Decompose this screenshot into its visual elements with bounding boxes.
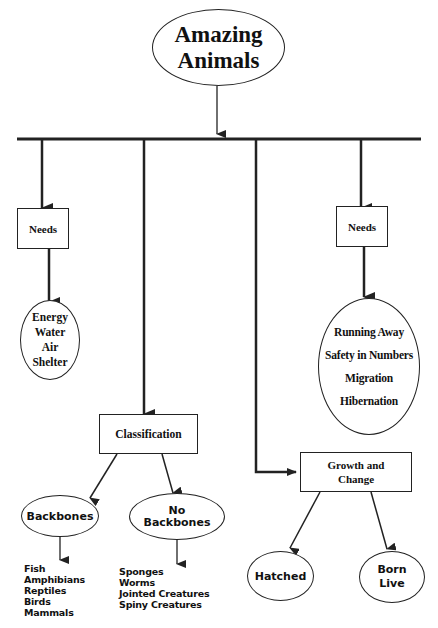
- needs-right-box: Needs: [336, 206, 388, 247]
- needs-left-item: Air: [42, 340, 59, 355]
- no-backbones-item: Sponges: [119, 566, 209, 577]
- no-backbones-list: Sponges Worms Jointed Creatures Spiny Cr…: [119, 566, 209, 610]
- needs-right-item: Hibernation: [340, 390, 398, 413]
- needs-left-item: Shelter: [32, 355, 67, 370]
- needs-right-item: Safety in Numbers: [325, 344, 413, 367]
- growth-label-line-1: Growth and: [328, 458, 385, 472]
- growth-change-box: Growth and Change: [300, 452, 412, 492]
- no-backbones-item: Jointed Creatures: [119, 588, 209, 599]
- title-line-1: Amazing: [174, 22, 262, 48]
- needs-left-label: Needs: [29, 223, 57, 235]
- needs-left-item: Energy: [32, 310, 68, 325]
- backbones-label: Backbones: [27, 510, 94, 523]
- needs-right-item: Running Away: [334, 321, 404, 344]
- hatched-label: Hatched: [255, 570, 307, 583]
- needs-right-item: Migration: [345, 367, 393, 390]
- backbones-item: Birds: [24, 596, 85, 607]
- needs-right-label: Needs: [348, 221, 376, 233]
- no-backbones-item: Spiny Creatures: [119, 599, 209, 610]
- hatched-node: Hatched: [247, 551, 314, 601]
- born-live-node: Born Live: [359, 551, 425, 603]
- backbones-item: Mammals: [24, 607, 85, 618]
- needs-left-box: Needs: [17, 208, 69, 249]
- backbones-item: Amphibians: [24, 574, 85, 585]
- needs-left-item: Water: [35, 325, 66, 340]
- no-backbones-node: No Backbones: [129, 493, 225, 540]
- no-backbones-label-line-1: No: [169, 505, 186, 517]
- growth-label-line-2: Change: [338, 472, 374, 486]
- no-backbones-item: Worms: [119, 577, 209, 588]
- backbones-node: Backbones: [21, 495, 99, 537]
- needs-right-items-node: Running Away Safety in Numbers Migration…: [318, 298, 420, 435]
- title-node: Amazing Animals: [152, 9, 285, 86]
- classification-label: Classification: [115, 428, 181, 440]
- needs-left-items-node: Energy Water Air Shelter: [20, 300, 80, 380]
- born-live-line-2: Live: [379, 577, 404, 591]
- backbones-item: Fish: [24, 563, 85, 574]
- backbones-item: Reptiles: [24, 585, 85, 596]
- title-line-2: Animals: [178, 48, 260, 74]
- no-backbones-label-line-2: Backbones: [144, 517, 211, 529]
- backbones-list: Fish Amphibians Reptiles Birds Mammals: [24, 563, 85, 618]
- born-live-line-1: Born: [377, 563, 406, 577]
- classification-box: Classification: [99, 414, 198, 454]
